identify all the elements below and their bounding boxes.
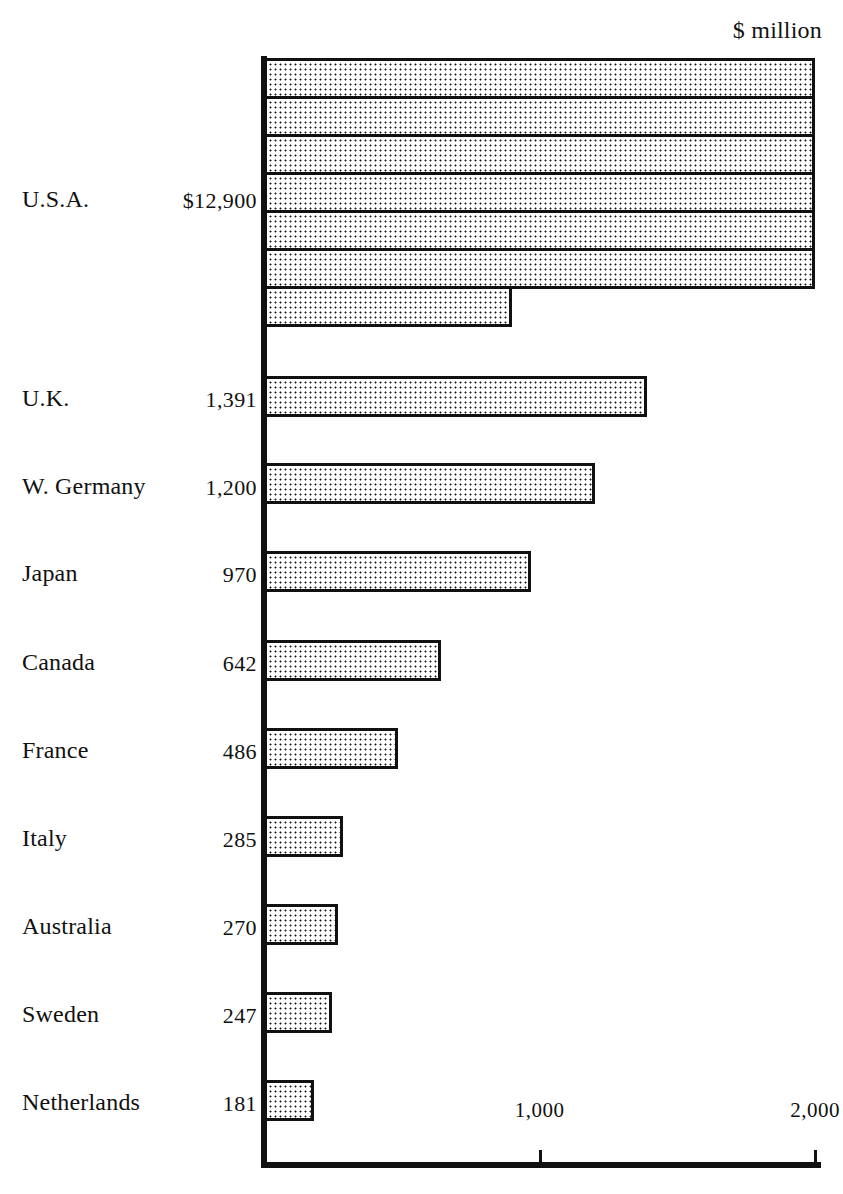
bar	[264, 376, 647, 417]
bar-segment	[264, 248, 815, 289]
value-label: 1,391	[206, 387, 258, 413]
value-label: 486	[223, 739, 257, 765]
x-axis-tick	[814, 1150, 817, 1163]
category-label: U.S.A.	[22, 186, 89, 213]
bar	[264, 640, 441, 681]
bar-segment	[264, 96, 815, 137]
bar-segment	[264, 58, 815, 99]
category-label: Australia	[22, 913, 112, 940]
bar	[264, 551, 531, 592]
x-axis-tick-label: 2,000	[790, 1098, 840, 1123]
x-axis-tick	[539, 1150, 542, 1163]
value-label: 970	[223, 562, 257, 588]
bar	[264, 904, 338, 945]
value-label: 642	[223, 651, 257, 677]
unit-caption: $ million	[733, 17, 822, 44]
category-label: France	[22, 737, 89, 764]
bar	[264, 1080, 314, 1121]
bar-chart: $ million 1,0002,000 U.S.A.$12,900U.K.1,…	[0, 0, 843, 1194]
value-label: 181	[223, 1091, 257, 1117]
category-label: Netherlands	[22, 1089, 140, 1116]
bar	[264, 463, 595, 504]
category-label: U.K.	[22, 385, 69, 412]
bar-segment	[264, 134, 815, 175]
bar-segment	[264, 210, 815, 251]
value-label: 270	[223, 915, 257, 941]
value-label: 1,200	[206, 475, 258, 501]
bar	[264, 728, 398, 769]
bar-segment-remainder	[264, 286, 512, 327]
category-label: Sweden	[22, 1001, 99, 1028]
value-label: 285	[223, 827, 257, 853]
value-label: $12,900	[183, 188, 257, 214]
category-label: Japan	[22, 560, 78, 587]
value-label: 247	[223, 1003, 257, 1029]
bar	[264, 816, 343, 857]
category-label: W. Germany	[22, 473, 146, 500]
bar	[264, 992, 332, 1033]
category-label: Italy	[22, 825, 67, 852]
category-label: Canada	[22, 649, 95, 676]
x-axis-tick-label: 1,000	[515, 1098, 565, 1123]
bar-segment	[264, 172, 815, 213]
